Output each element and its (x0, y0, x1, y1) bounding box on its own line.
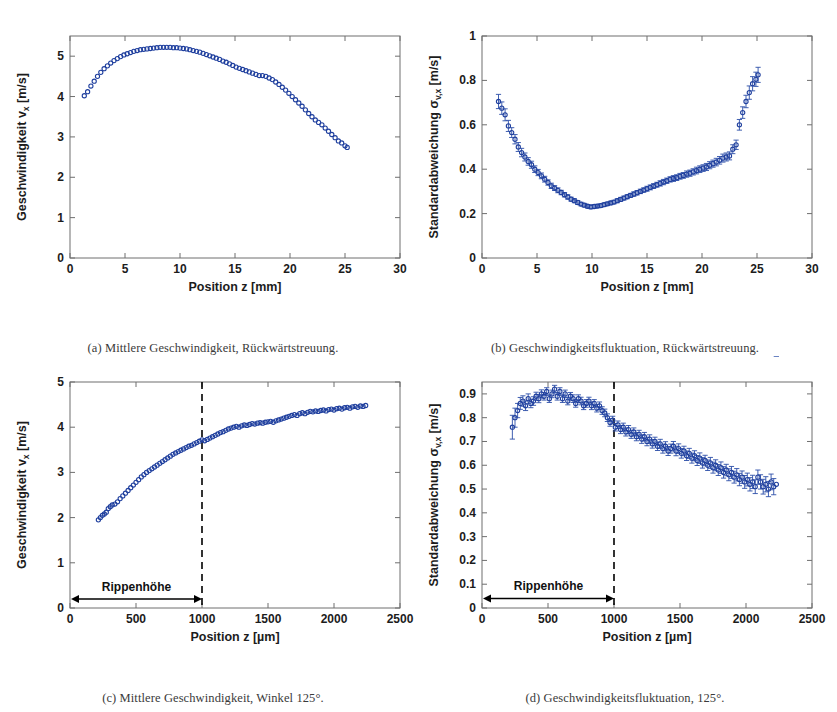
y-tick-label: 0.2 (459, 553, 476, 567)
data-point (364, 403, 368, 407)
y-tick-label: 0 (57, 251, 64, 265)
subplot-panel-b: 05101520253000.20.40.60.81Position z [mm… (420, 6, 830, 362)
x-axis-title: Position z [mm] (188, 280, 281, 294)
svg-text:Geschwindigkeit vx [m/s]: Geschwindigkeit vx [m/s] (15, 421, 31, 569)
y-tick-label: 1 (57, 211, 64, 225)
x-tick-label: 1500 (255, 612, 282, 626)
x-tick-label: 5 (534, 262, 541, 276)
y-tick-label: 0.8 (459, 411, 476, 425)
x-tick-label: 2000 (733, 612, 760, 626)
data-point (89, 84, 93, 88)
y-tick-label: 0.8 (459, 73, 476, 87)
y-tick-label: 0.1 (459, 577, 476, 591)
plot-frame (482, 36, 812, 258)
figure-grid: 051015202530012345Position z [mm]Geschwi… (0, 0, 837, 712)
x-tick-label: 0 (67, 262, 74, 276)
y-tick-label: 3 (57, 130, 64, 144)
y-tick-label: 5 (57, 49, 64, 63)
x-tick-label: 0 (67, 612, 74, 626)
x-axis-title: Position z [µm] (190, 630, 279, 644)
y-tick-label: 0.5 (459, 482, 476, 496)
rippenhoehe-label: Rippenhöhe (102, 580, 172, 594)
y-tick-label: 2 (57, 511, 64, 525)
data-point (300, 104, 304, 108)
y-tick-label: 0 (469, 251, 476, 265)
x-tick-label: 10 (585, 262, 599, 276)
caption-d: (d) Geschwindigkeitsfluktuation, 125°. (420, 691, 830, 706)
data-point (774, 482, 778, 486)
y-tick-label: 0 (469, 601, 476, 615)
chart-c: 05001000150020002500012345RippenhöhePosi… (8, 356, 418, 674)
x-tick-label: 1000 (189, 612, 216, 626)
x-tick-label: 10 (173, 262, 187, 276)
data-point (303, 108, 307, 112)
plot-area-d: 0500100015002000250000.10.20.30.40.50.60… (420, 356, 830, 674)
plot-area-c: 05001000150020002500012345RippenhöhePosi… (8, 356, 418, 674)
x-axis-title: Position z [µm] (602, 630, 691, 644)
svg-text:Standardabweichung σv,x [m/s]: Standardabweichung σv,x [m/s] (427, 404, 443, 587)
y-tick-label: 1 (57, 556, 64, 570)
x-tick-label: 25 (338, 262, 352, 276)
caption-a: (a) Mittlere Geschwindigkeit, Rückwärtst… (8, 341, 418, 356)
x-tick-label: 15 (640, 262, 654, 276)
x-tick-label: 25 (750, 262, 764, 276)
y-tick-label: 0.3 (459, 530, 476, 544)
x-tick-label: 30 (805, 262, 819, 276)
x-tick-label: 30 (393, 262, 407, 276)
subplot-panel-d: 0500100015002000250000.10.20.30.40.50.60… (420, 356, 830, 712)
x-tick-label: 5 (122, 262, 129, 276)
y-tick-label: 4 (57, 90, 64, 104)
y-axis-title: Geschwindigkeit vx [m/s] (15, 73, 31, 221)
x-tick-label: 2500 (387, 612, 414, 626)
x-tick-label: 0 (479, 262, 486, 276)
subplot-panel-a: 051015202530012345Position z [mm]Geschwi… (8, 6, 418, 362)
rippenhoehe-arrow-head-left (71, 595, 79, 603)
y-tick-label: 0.4 (459, 506, 476, 520)
y-axis-title: Standardabweichung σv,x [m/s] (427, 56, 443, 239)
x-tick-label: 20 (695, 262, 709, 276)
x-axis-title: Position z [mm] (600, 280, 693, 294)
y-tick-label: 4 (57, 420, 64, 434)
x-tick-label: 2000 (321, 612, 348, 626)
y-tick-label: 0.2 (459, 207, 476, 221)
caption-c: (c) Mittlere Geschwindigkeit, Winkel 125… (8, 691, 418, 706)
y-tick-label: 5 (57, 375, 64, 389)
y-tick-label: 0.7 (459, 434, 476, 448)
y-tick-label: 0.6 (459, 458, 476, 472)
y-tick-label: 3 (57, 465, 64, 479)
y-axis-title: Geschwindigkeit vx [m/s] (15, 421, 31, 569)
data-point (95, 74, 99, 78)
y-tick-label: 0.6 (459, 118, 476, 132)
x-tick-label: 500 (538, 612, 558, 626)
rippenhoehe-arrow-head-left (483, 594, 491, 602)
rippenhoehe-arrow-head-right (194, 595, 202, 603)
data-point (92, 79, 96, 83)
y-tick-label: 2 (57, 170, 64, 184)
y-axis-title: Standardabweichung σv,x [m/s] (427, 404, 443, 587)
plot-frame (482, 382, 812, 608)
x-tick-label: 500 (126, 612, 146, 626)
svg-text:Standardabweichung σv,x [m/s]: Standardabweichung σv,x [m/s] (427, 56, 443, 239)
x-tick-label: 2500 (799, 612, 826, 626)
x-tick-label: 20 (283, 262, 297, 276)
data-point (86, 90, 90, 94)
y-tick-label: 0.4 (459, 162, 476, 176)
plot-area-a: 051015202530012345Position z [mm]Geschwi… (8, 6, 418, 324)
chart-a: 051015202530012345Position z [mm]Geschwi… (8, 6, 418, 324)
plot-area-b: 05101520253000.20.40.60.81Position z [mm… (420, 6, 830, 324)
rippenhoehe-arrow-head-right (606, 594, 614, 602)
data-point (99, 70, 103, 74)
svg-text:Geschwindigkeit vx [m/s]: Geschwindigkeit vx [m/s] (15, 73, 31, 221)
x-tick-label: 1500 (667, 612, 694, 626)
data-point (82, 94, 86, 98)
caption-b: (b) Geschwindigkeitsfluktuation, Rückwär… (420, 341, 830, 356)
x-tick-label: 15 (228, 262, 242, 276)
x-tick-label: 0 (479, 612, 486, 626)
x-tick-label: 1000 (601, 612, 628, 626)
chart-d: 0500100015002000250000.10.20.30.40.50.60… (420, 356, 830, 674)
subplot-panel-c: 05001000150020002500012345RippenhöhePosi… (8, 356, 418, 712)
y-tick-label: 0.9 (459, 387, 476, 401)
plot-frame (70, 382, 400, 608)
y-tick-label: 1 (469, 29, 476, 43)
chart-b: 05101520253000.20.40.60.81Position z [mm… (420, 6, 830, 324)
